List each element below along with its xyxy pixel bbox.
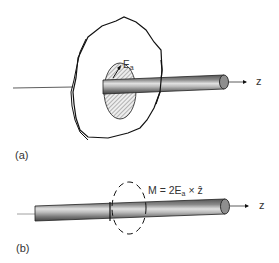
panel-label-a: (a) bbox=[15, 149, 28, 161]
z-axis-label-b: z bbox=[259, 199, 265, 211]
panel-a bbox=[13, 17, 247, 140]
panel-label-b: (b) bbox=[16, 242, 29, 254]
panel-b bbox=[17, 182, 249, 234]
magnetic-current-equation: M = 2Ea × ẑ bbox=[148, 184, 203, 197]
z-axis-label-a: z bbox=[256, 75, 262, 87]
rod-a-end bbox=[220, 75, 229, 89]
rod-b bbox=[35, 199, 225, 221]
field-label: Ea bbox=[123, 59, 134, 71]
rod-b-end bbox=[221, 199, 230, 214]
z-axis-left bbox=[13, 87, 73, 88]
diagram-canvas bbox=[0, 0, 279, 263]
